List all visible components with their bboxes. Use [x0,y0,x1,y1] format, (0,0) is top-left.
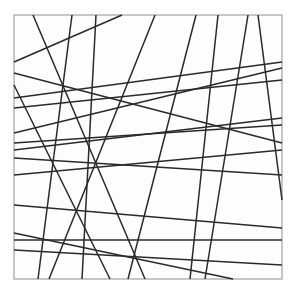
line-arrangement-figure [0,0,296,292]
figure-container [0,0,296,292]
